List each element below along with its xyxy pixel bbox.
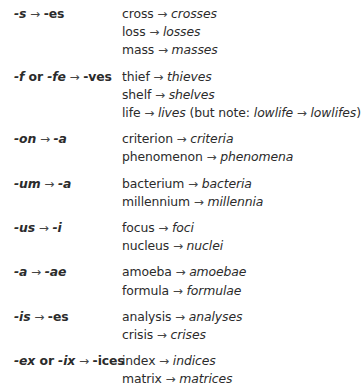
example-row: loss → losses bbox=[122, 23, 339, 41]
plural-word: criteria bbox=[190, 131, 233, 146]
singular-word: bacterium bbox=[122, 176, 184, 191]
arrow-icon: → bbox=[153, 328, 170, 342]
examples-list: focus → focinucleus → nuclei bbox=[122, 219, 339, 255]
plural-word: indices bbox=[173, 353, 216, 368]
rule-group: -is → -esanalysis → analysescrisis → cri… bbox=[14, 308, 339, 344]
example-row: mass → masses bbox=[122, 41, 339, 59]
arrow-icon: → bbox=[169, 239, 186, 253]
singular-word: life bbox=[122, 105, 140, 120]
arrow-icon: → bbox=[36, 132, 53, 146]
rule-group: -s → -escross → crossesloss → lossesmass… bbox=[14, 5, 339, 60]
example-row: amoeba → amoebae bbox=[122, 263, 339, 281]
rule-suffix: or bbox=[24, 69, 47, 84]
rule-suffix: -ices bbox=[93, 353, 125, 368]
singular-word: loss bbox=[122, 24, 146, 39]
plural-word: analyses bbox=[189, 309, 243, 324]
rule-suffix: -es bbox=[44, 6, 65, 21]
example-row: shelf → shelves bbox=[122, 86, 361, 104]
rule-suffix: -es bbox=[48, 309, 69, 324]
arrow-icon: → bbox=[146, 25, 163, 39]
examples-list: amoeba → amoebaeformula → formulae bbox=[122, 263, 339, 299]
rule-suffix: -on bbox=[14, 131, 36, 146]
arrow-icon: → bbox=[66, 70, 83, 84]
examples-list: bacterium → bacteriamillennium → millenn… bbox=[122, 175, 339, 211]
plural-word: lives bbox=[158, 105, 186, 120]
plural-word: crosses bbox=[171, 6, 217, 21]
plural-word: shelves bbox=[169, 87, 215, 102]
plural-word: amoebae bbox=[189, 264, 246, 279]
singular-word: index bbox=[122, 353, 155, 368]
arrow-icon: → bbox=[184, 177, 201, 191]
example-row: phenomenon → phenomena bbox=[122, 148, 339, 166]
rule-label: -on → -a bbox=[14, 130, 122, 148]
rule-label: -us → -i bbox=[14, 219, 122, 237]
rule-label: -is → -es bbox=[14, 308, 122, 326]
singular-word: cross bbox=[122, 6, 154, 21]
examples-list: index → indicesmatrix → matrices bbox=[122, 352, 339, 386]
rule-suffix: -um bbox=[14, 176, 41, 191]
plural-word: nuclei bbox=[187, 238, 223, 253]
arrow-icon: → bbox=[75, 354, 92, 368]
examples-list: criterion → criteriaphenomenon → phenome… bbox=[122, 130, 339, 166]
arrow-icon: → bbox=[293, 106, 310, 120]
arrow-icon: → bbox=[172, 265, 189, 279]
rule-suffix: -f bbox=[14, 69, 24, 84]
arrow-icon: → bbox=[27, 265, 44, 279]
rule-suffix: -i bbox=[52, 220, 61, 235]
rule-suffix: -fe bbox=[47, 69, 66, 84]
arrow-icon: → bbox=[162, 372, 179, 386]
rule-label: -f or -fe → -ves bbox=[14, 68, 122, 86]
plural-word: phenomena bbox=[220, 149, 293, 164]
example-row: index → indices bbox=[122, 352, 339, 370]
singular-word: shelf bbox=[122, 87, 151, 102]
arrow-icon: → bbox=[26, 7, 43, 21]
plural-word: crises bbox=[171, 327, 206, 342]
rule-group: -a → -aeamoeba → amoebaeformula → formul… bbox=[14, 263, 339, 299]
arrow-icon: → bbox=[155, 354, 172, 368]
rule-suffix: -a bbox=[54, 131, 67, 146]
plural-word: matrices bbox=[179, 371, 232, 386]
singular-word: thief bbox=[122, 69, 150, 84]
rule-label: -um → -a bbox=[14, 175, 122, 193]
rule-group: -um → -abacterium → bacteriamillennium →… bbox=[14, 175, 339, 211]
rule-label: -s → -es bbox=[14, 5, 122, 23]
rule-suffix: -a bbox=[58, 176, 71, 191]
singular-word: crisis bbox=[122, 327, 153, 342]
rule-group: -ex or -ix → -icesindex → indicesmatrix … bbox=[14, 352, 339, 386]
example-row: nucleus → nuclei bbox=[122, 237, 339, 255]
rule-suffix: -us bbox=[14, 220, 35, 235]
example-row: criterion → criteria bbox=[122, 130, 339, 148]
example-row: thief → thieves bbox=[122, 68, 361, 86]
plural-word: thieves bbox=[167, 69, 212, 84]
arrow-icon: → bbox=[35, 221, 52, 235]
arrow-icon: → bbox=[155, 221, 172, 235]
example-row: bacterium → bacteria bbox=[122, 175, 339, 193]
singular-word: mass bbox=[122, 42, 154, 57]
note-plural-word: lowlifes bbox=[311, 105, 357, 120]
arrow-icon: → bbox=[140, 106, 157, 120]
plural-word: losses bbox=[163, 24, 200, 39]
rule-label: -a → -ae bbox=[14, 263, 122, 281]
note-singular-word: lowlife bbox=[254, 105, 293, 120]
rule-suffix: -ae bbox=[45, 264, 67, 279]
examples-list: cross → crossesloss → lossesmass → masse… bbox=[122, 5, 339, 60]
rule-suffix: -a bbox=[14, 264, 27, 279]
plural-word: bacteria bbox=[202, 176, 252, 191]
examples-list: analysis → analysescrisis → crises bbox=[122, 308, 339, 344]
example-row: crisis → crises bbox=[122, 326, 339, 344]
example-row: cross → crosses bbox=[122, 5, 339, 23]
example-row: millennium → millennia bbox=[122, 193, 339, 211]
plural-word: formulae bbox=[186, 283, 241, 298]
rule-group: -us → -ifocus → focinucleus → nuclei bbox=[14, 219, 339, 255]
rule-suffix: -s bbox=[14, 6, 26, 21]
rule-suffix: or bbox=[35, 353, 58, 368]
singular-word: phenomenon bbox=[122, 149, 203, 164]
singular-word: criterion bbox=[122, 131, 173, 146]
note-suffix: ) bbox=[356, 105, 361, 120]
singular-word: focus bbox=[122, 220, 155, 235]
rule-suffix: -ex bbox=[14, 353, 35, 368]
singular-word: formula bbox=[122, 283, 169, 298]
arrow-icon: → bbox=[169, 284, 186, 298]
arrow-icon: → bbox=[203, 150, 220, 164]
arrow-icon: → bbox=[171, 310, 188, 324]
